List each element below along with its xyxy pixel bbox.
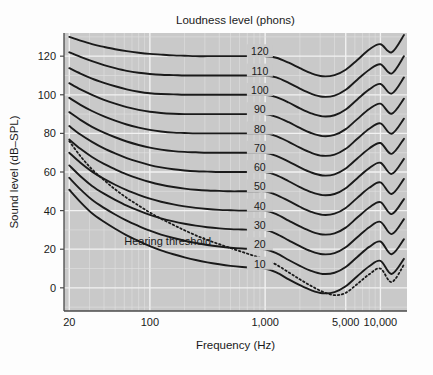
equal-loudness-contour-figure: 120110100908070605040302010 201001,0005,… (0, 0, 433, 375)
curve-label-50: 50 (254, 180, 266, 192)
y-tick-label-0: 0 (50, 282, 56, 294)
x-tick-label-20: 20 (63, 316, 75, 328)
curve-label-30: 30 (254, 219, 266, 231)
y-tick-label-120: 120 (38, 50, 56, 62)
curve-label-70: 70 (254, 142, 266, 154)
curve-label-40: 40 (254, 200, 266, 212)
curve-label-80: 80 (254, 123, 266, 135)
x-tick-label-5000: 5,000 (332, 316, 360, 328)
y-tick-label-80: 80 (44, 127, 56, 139)
y-tick-label-40: 40 (44, 205, 56, 217)
y-tick-label-100: 100 (38, 89, 56, 101)
y-tick-label-20: 20 (44, 243, 56, 255)
curve-label-100: 100 (251, 84, 269, 96)
curve-label-120: 120 (251, 45, 269, 57)
curve-label-60: 60 (254, 161, 266, 173)
x-axis-title: Frequency (Hz) (196, 339, 275, 351)
curve-label-20: 20 (254, 238, 266, 250)
hearing-threshold-label: Hearing threshold (124, 235, 211, 247)
x-tick-label-10000: 10,000 (364, 316, 398, 328)
curve-label-10: 10 (254, 258, 266, 270)
y-axis-title: Sound level (dB–SPL) (8, 115, 20, 228)
chart-title: Loudness level (phons) (176, 14, 295, 26)
chart-canvas: 120110100908070605040302010 201001,0005,… (0, 0, 433, 375)
curve-label-90: 90 (254, 103, 266, 115)
x-tick-label-100: 100 (141, 316, 159, 328)
curve-label-110: 110 (251, 65, 268, 77)
x-tick-label-1000: 1,000 (251, 316, 279, 328)
y-tick-label-60: 60 (44, 166, 56, 178)
